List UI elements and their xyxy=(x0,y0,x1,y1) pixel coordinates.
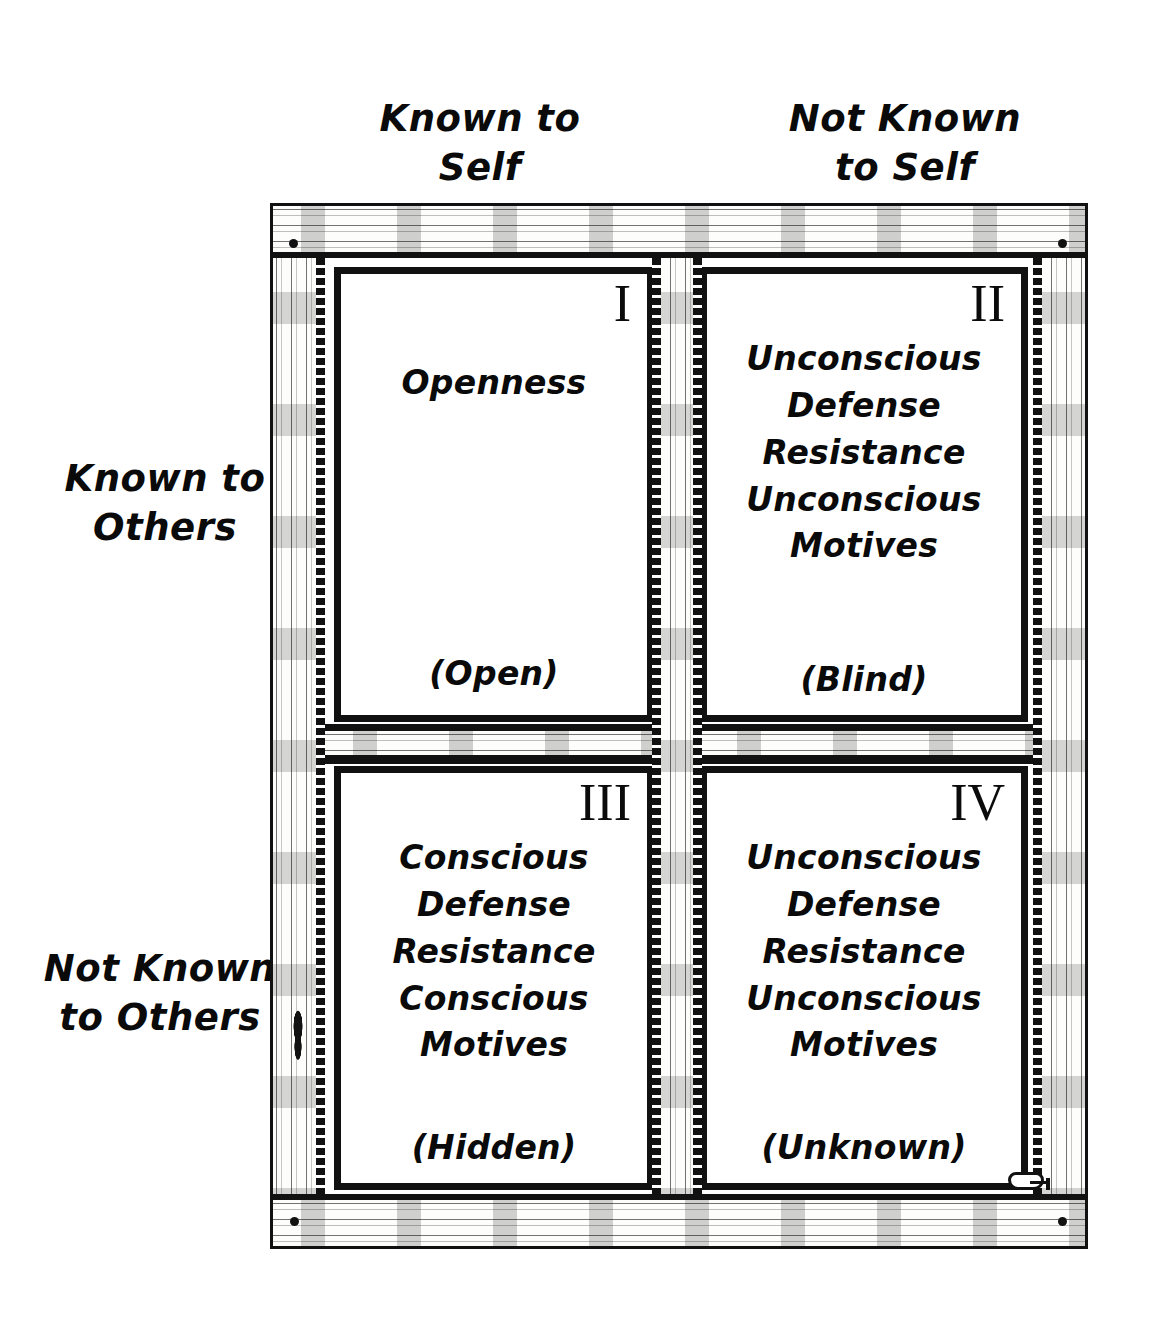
quadrant-open-numeral: I xyxy=(614,278,631,330)
row-header-known-to-others-line1: Known to xyxy=(40,455,290,504)
row-header-known-to-others: Known to Others xyxy=(40,455,290,553)
nail-head-icon xyxy=(289,239,298,248)
quadrant-unknown-caption: (Unknown) xyxy=(761,1128,966,1167)
quadrant-blind-lines: Unconscious Defense Resistance Unconscio… xyxy=(707,336,1021,570)
column-header-known-to-self-line2: Self xyxy=(330,144,630,193)
quadrant-hidden-caption-wrap: (Hidden) xyxy=(341,1128,647,1167)
quadrant-open-caption: (Open) xyxy=(429,654,559,693)
quadrant-unknown: IV Unconscious Defense Resistance Uncons… xyxy=(700,766,1028,1190)
frame-mullion-left-shadow-edge xyxy=(652,258,661,1194)
quadrant-line: Unconscious xyxy=(707,477,1021,524)
quadrant-hidden: III Conscious Defense Resistance Conscio… xyxy=(334,766,654,1190)
quadrant-unknown-caption-wrap: (Unknown) xyxy=(707,1128,1021,1167)
quadrant-line: Motives xyxy=(707,1022,1021,1069)
window-latch-post xyxy=(1046,1178,1050,1190)
quadrant-open: I Openness (Open) xyxy=(334,267,654,722)
quadrant-line: Resistance xyxy=(341,929,647,976)
quadrant-line: Defense xyxy=(341,882,647,929)
column-header-known-to-self-line1: Known to xyxy=(330,95,630,144)
quadrant-blind: II Unconscious Defense Resistance Uncons… xyxy=(700,267,1028,722)
nail-head-icon xyxy=(290,1217,299,1226)
frame-mullion-right-shadow-edge xyxy=(693,258,702,1194)
quadrant-open-caption-wrap: (Open) xyxy=(341,654,647,693)
quadrant-line: Unconscious xyxy=(707,835,1021,882)
nail-head-icon xyxy=(1058,239,1067,248)
quadrant-line: Conscious xyxy=(341,976,647,1023)
quadrant-line: Unconscious xyxy=(707,976,1021,1023)
frame-left-stile-shadow-edge xyxy=(316,258,325,1194)
quadrant-line: Resistance xyxy=(707,430,1021,477)
quadrant-unknown-numeral: IV xyxy=(950,777,1005,829)
row-header-known-to-others-line2: Others xyxy=(40,504,290,553)
window-latch-icon xyxy=(1008,1172,1052,1190)
column-header-not-known-to-self-line1: Not Known xyxy=(755,95,1055,144)
quadrant-hidden-caption: (Hidden) xyxy=(412,1128,577,1167)
quadrant-blind-numeral: II xyxy=(970,278,1005,330)
quadrant-line: Defense xyxy=(707,882,1021,929)
nail-head-icon xyxy=(1058,1217,1067,1226)
quadrant-blind-caption-wrap: (Blind) xyxy=(707,660,1021,699)
quadrant-unknown-lines: Unconscious Defense Resistance Unconscio… xyxy=(707,835,1021,1069)
row-header-not-known-to-others: Not Known to Others xyxy=(25,945,295,1043)
column-header-not-known-to-self-line2: to Self xyxy=(755,144,1055,193)
column-header-not-known-to-self: Not Known to Self xyxy=(755,95,1055,193)
quadrant-hidden-numeral: III xyxy=(579,777,631,829)
quadrant-line: Openness xyxy=(341,360,647,407)
frame-center-mullion xyxy=(652,258,702,1194)
wood-knot-icon xyxy=(287,1006,309,1064)
frame-bottom-sill xyxy=(273,1194,1085,1246)
frame-right-stile-shadow-edge xyxy=(1033,258,1042,1194)
row-header-not-known-to-others-line2: to Others xyxy=(25,994,295,1043)
column-header-known-to-self: Known to Self xyxy=(330,95,630,193)
johari-window-frame: I Openness (Open) II Unconscious Defense… xyxy=(270,203,1088,1249)
quadrant-open-lines: Openness xyxy=(341,360,647,407)
frame-top-rail xyxy=(273,206,1085,258)
quadrant-line: Motives xyxy=(341,1022,647,1069)
frame-right-stile xyxy=(1033,258,1085,1194)
quadrant-blind-caption: (Blind) xyxy=(800,660,927,699)
row-header-not-known-to-others-line1: Not Known xyxy=(25,945,295,994)
quadrant-hidden-lines: Conscious Defense Resistance Conscious M… xyxy=(341,835,647,1069)
quadrant-line: Unconscious xyxy=(707,336,1021,383)
quadrant-line: Conscious xyxy=(341,835,647,882)
quadrant-line: Motives xyxy=(707,523,1021,570)
quadrant-line: Defense xyxy=(707,383,1021,430)
quadrant-line: Resistance xyxy=(707,929,1021,976)
